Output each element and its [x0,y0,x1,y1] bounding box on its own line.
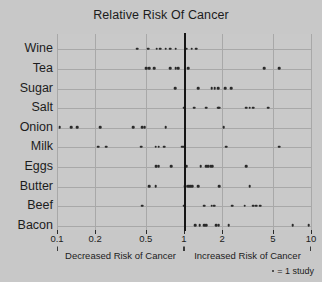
tick-label: 2 [220,233,225,244]
data-point [143,126,146,129]
data-point [191,185,194,188]
data-point [218,106,221,109]
data-point [195,47,198,50]
data-point [157,145,160,148]
data-point [163,145,166,148]
data-point [99,126,102,129]
data-point [170,165,173,168]
data-point [153,67,156,70]
data-point [148,67,151,70]
data-point [211,165,214,168]
data-point [197,87,200,90]
data-point [218,185,221,188]
tick-label: 0.2 [89,233,102,244]
data-point [292,224,295,227]
data-point [213,204,216,207]
data-point [227,224,230,227]
data-point [174,87,177,90]
data-point [217,87,220,90]
data-point [243,204,246,207]
gridline-vertical [95,34,96,230]
data-point [157,165,160,168]
gridline-vertical [146,34,147,230]
gridline-vertical [311,34,312,230]
data-point [169,67,172,70]
data-point [245,106,248,109]
data-point [177,67,180,70]
tick-label: 0.1 [50,233,63,244]
tick-label: 1 [181,233,186,244]
data-point [185,165,188,168]
legend-label: = 1 study [277,266,314,276]
gridline-vertical [222,34,223,230]
axis-annotation-decreased: Decreased Risk of Cancer [65,250,176,261]
data-point [203,204,206,207]
data-point [148,185,151,188]
data-point [263,67,266,70]
data-point [194,224,197,227]
y-axis-label-bacon: Bacon [1,219,57,231]
data-point [169,47,172,50]
y-axis-label-milk: Milk [1,140,57,152]
data-point [245,165,248,168]
y-axis-label-eggs: Eggs [1,160,57,172]
y-axis-label-tea: Tea [1,62,57,74]
data-point [76,126,79,129]
data-point [190,47,193,50]
data-point [205,224,208,227]
data-point [222,126,225,129]
tick-label: 0.5 [139,233,152,244]
y-axis-label-salt: Salt [1,101,57,113]
data-point [140,145,143,148]
data-point [249,106,252,109]
data-point [132,126,135,129]
data-point [198,224,201,227]
data-point [249,185,252,188]
data-point [136,47,139,50]
data-point [278,145,281,148]
y-axis-label-onion: Onion [1,121,57,133]
data-point [97,145,100,148]
data-point [230,87,233,90]
data-point [185,47,188,50]
data-point [159,47,162,50]
data-point [278,67,281,70]
data-point [199,165,202,168]
data-point [174,47,177,50]
axis-annotation-increased: Increased Risk of Cancer [194,250,301,261]
data-point [187,67,190,70]
data-point [193,106,196,109]
data-point [259,204,262,207]
data-point [155,47,158,50]
data-point [147,47,150,50]
study-dot-icon [272,270,275,273]
y-axis-label-beef: Beef [1,199,57,211]
data-point [141,204,144,207]
data-point [225,145,228,148]
plot-area [57,34,311,230]
y-axis-labels: WineTeaSugarSaltOnionMilkEggsButterBeefB… [0,34,57,230]
data-point [165,47,168,50]
y-axis-label-sugar: Sugar [1,82,57,94]
y-axis-label-butter: Butter [1,180,57,192]
data-point [307,224,310,227]
gridline-vertical [57,34,58,230]
data-point [210,87,213,90]
reference-line [184,33,186,231]
data-point [197,185,200,188]
data-point [231,204,234,207]
data-point [155,185,158,188]
data-point [70,126,73,129]
data-point [267,106,270,109]
data-point [224,87,227,90]
tick-label: 5 [270,233,275,244]
gridline-vertical [273,34,274,230]
data-point [165,126,168,129]
data-point [205,106,208,109]
y-axis-label-wine: Wine [1,42,57,54]
data-point [218,224,221,227]
data-point [58,126,61,129]
relative-risk-chart: Relative Risk Of Cancer WineTeaSugarSalt… [0,0,322,282]
legend: = 1 study [272,266,314,276]
data-point [255,204,258,207]
